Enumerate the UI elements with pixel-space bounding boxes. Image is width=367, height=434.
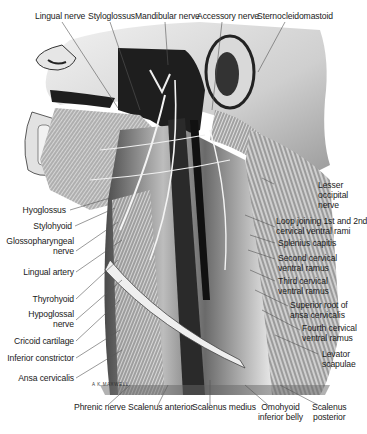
label-sternocleidomastoid: Sternocleidomastoid xyxy=(257,11,333,21)
label-superior-root-ansa-cervicalis: Superior root of ansa cervicalis xyxy=(290,300,348,320)
label-glossopharyngeal-nerve: Glossopharyngeal nerve xyxy=(6,236,74,256)
label-thyrohyoid: Thyrohyoid xyxy=(32,294,74,304)
label-lesser-occipital-nerve: Lesser occipital nerve xyxy=(318,180,348,210)
label-accessory-nerve: Accessory nerve xyxy=(197,11,259,21)
label-omohyoid-inferior-belly: Omohyoid inferior belly xyxy=(258,402,303,422)
label-phrenic-nerve: Phrenic nerve xyxy=(74,402,126,412)
label-scalenus-anterior: Scalenus anterior xyxy=(128,402,193,412)
label-scalenus-medius: Scalenus medius xyxy=(192,402,256,412)
label-levator-scapulae: Levator scapulae xyxy=(322,349,356,369)
label-third-cervical-ventral-ramus: Third cervical ventral ramus xyxy=(278,276,329,296)
label-stylohyoid: Stylohyoid xyxy=(33,221,72,231)
label-scalenus-posterior: Scalenus posterior xyxy=(312,402,347,422)
label-mandibular-nerve: Mandibular nerve xyxy=(135,11,200,21)
label-hypoglossal-nerve: Hypoglossal nerve xyxy=(28,309,74,329)
label-loop-joining-rami: Loop joining 1st and 2nd cervical ventra… xyxy=(276,216,367,236)
label-inferior-constrictor: Inferior constrictor xyxy=(7,353,74,363)
label-ansa-cervicalis: Ansa cervicalis xyxy=(18,373,74,383)
label-splenius-capitis: Splenius capitis xyxy=(278,238,336,248)
label-second-cervical-ventral-ramus: Second cervical ventral ramus xyxy=(278,253,337,273)
label-lingual-nerve: Lingual nerve xyxy=(35,11,85,21)
label-fourth-cervical-ventral-ramus: Fourth cervical ventral ramus xyxy=(302,323,357,343)
artist-signature: A K MAXWELL xyxy=(92,382,129,387)
label-lingual-artery: Lingual artery xyxy=(23,267,74,277)
label-styloglossus: Styloglossus xyxy=(88,11,135,21)
label-cricoid-cartilage: Cricoid cartilage xyxy=(14,336,74,346)
label-hyoglossus: Hyoglossus xyxy=(23,205,66,215)
